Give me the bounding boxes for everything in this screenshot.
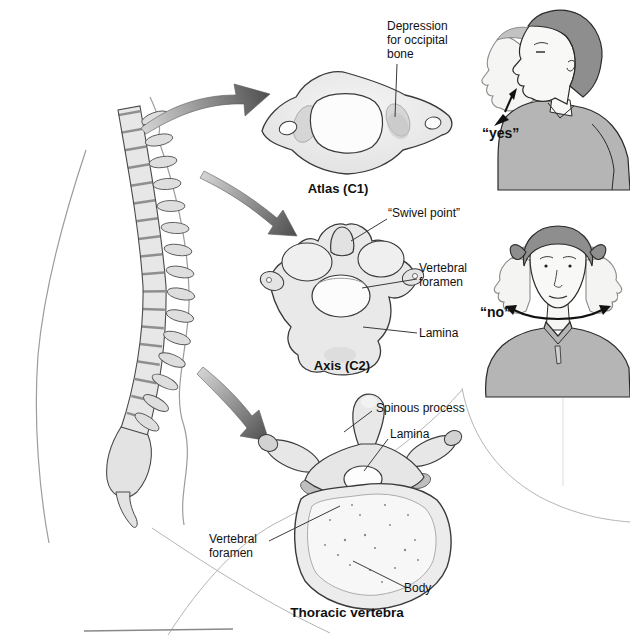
label-body: Body <box>404 581 431 595</box>
torso-front-contour <box>36 150 86 543</box>
label-thoracic-lamina: Lamina <box>390 427 429 441</box>
axis-right-transverse-foramen <box>413 274 418 279</box>
axis-left-superior-facet <box>282 243 332 281</box>
caption-thoracic-vertebra: Thoracic vertebra <box>259 605 435 620</box>
thoracic-vertebra-illustration <box>84 388 630 635</box>
label-no-motion: “no” <box>480 304 511 320</box>
arrow-to-atlas-icon <box>141 84 270 134</box>
page-edge-artifact <box>84 629 233 631</box>
spine-lateral-view <box>107 106 196 527</box>
atlas-vertebral-foramen-hole <box>310 94 382 153</box>
axis-c2-illustration <box>258 219 426 375</box>
anatomy-diagram: Depression for occipital bone Atlas (C1)… <box>0 0 630 635</box>
sacrum <box>107 427 152 497</box>
label-depression-for-occipital-bone: Depression for occipital bone <box>387 19 459 61</box>
spinous-knob-highlight <box>361 396 377 408</box>
axis-vertebral-foramen-hole <box>312 275 370 317</box>
axis-left-transverse-foramen <box>267 278 272 283</box>
anatomy-artwork <box>0 0 630 635</box>
no-motion-figure <box>486 226 630 486</box>
caption-atlas-c1: Atlas (C1) <box>268 181 408 196</box>
caption-axis-c2: Axis (C2) <box>272 358 412 373</box>
label-spinous-process: Spinous process <box>376 401 465 415</box>
dens-swivel-point <box>331 227 354 256</box>
label-yes-motion: “yes” <box>482 125 519 141</box>
atlas-c1-illustration <box>262 64 452 174</box>
label-axis-lamina: Lamina <box>419 326 458 340</box>
arrow-to-thoracic-icon <box>197 367 269 441</box>
coccyx <box>116 492 137 527</box>
label-axis-vertebral-foramen: Vertebral foramen <box>419 261 483 289</box>
label-swivel-point: “Swivel point” <box>388 206 460 220</box>
axis-right-superior-facet <box>358 241 404 277</box>
yes-motion-figure <box>482 10 630 190</box>
ghost-right-face <box>586 258 622 313</box>
label-thoracic-vertebral-foramen: Vertebral foramen <box>209 532 275 560</box>
